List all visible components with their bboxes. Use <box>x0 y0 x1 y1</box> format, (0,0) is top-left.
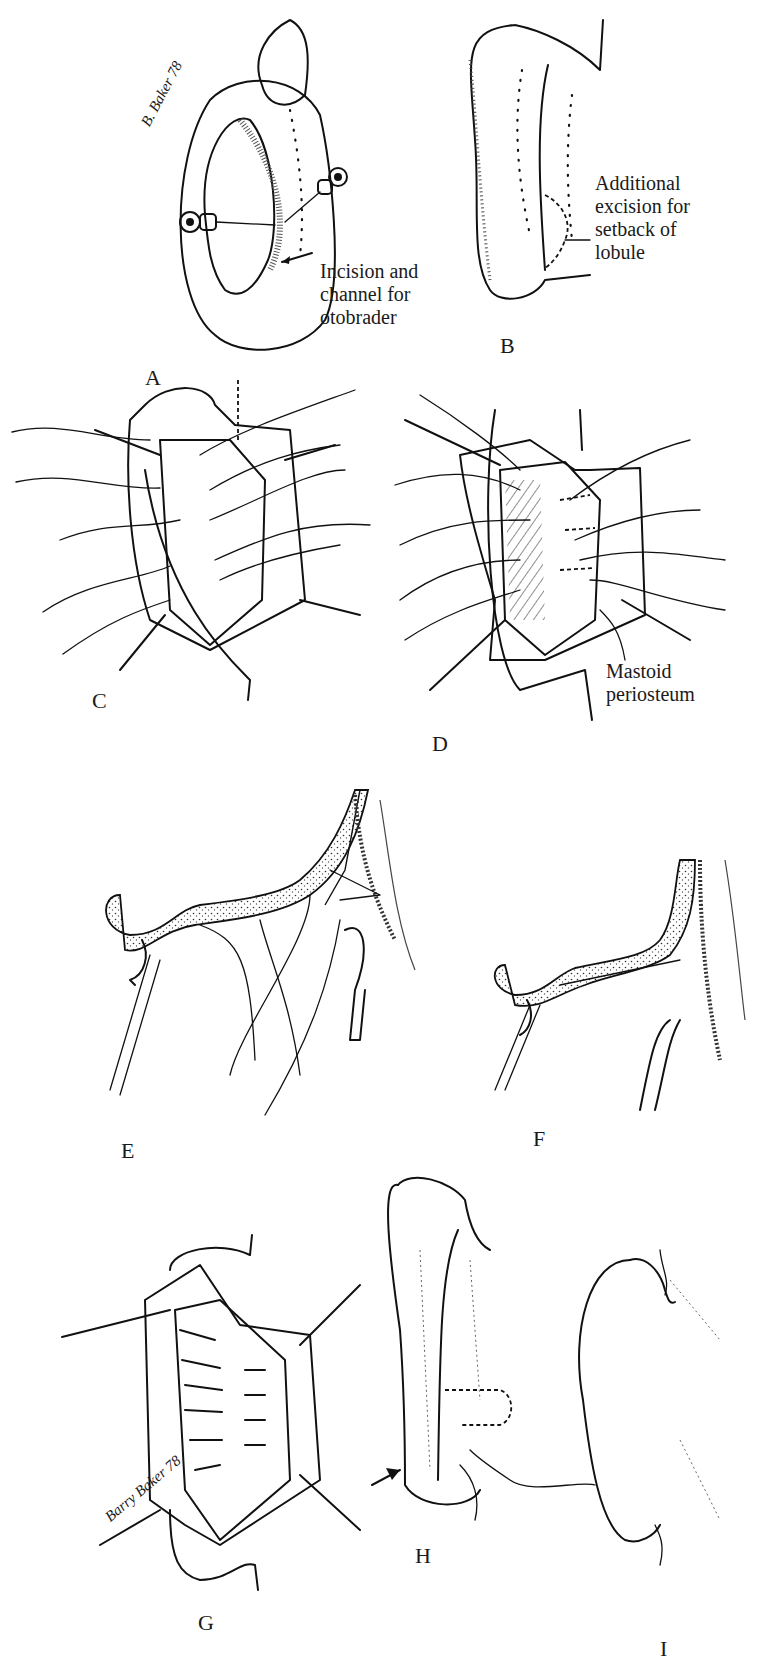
panel-label-d: D <box>432 733 448 755</box>
panel-c-wound-drawing <box>12 380 370 700</box>
panel-h-ear-drawing <box>372 1178 595 1520</box>
panel-e-cross-section-drawing <box>106 790 415 1115</box>
panel-b-ear-drawing <box>470 20 603 299</box>
callout-incision-channel: Incision and channel for otobrader <box>320 260 418 329</box>
otobrader-handle-left-icon <box>180 212 275 232</box>
panel-label-h: H <box>415 1545 431 1567</box>
panel-label-i: I <box>660 1638 667 1660</box>
otobrader-handle-right-icon <box>285 168 347 222</box>
callout-line-d <box>600 610 625 660</box>
callout-mastoid-periosteum: Mastoid periosteum <box>606 660 695 706</box>
panel-g-closure-drawing <box>62 1235 360 1590</box>
panel-label-f: F <box>533 1128 545 1150</box>
panel-label-e: E <box>121 1140 134 1162</box>
panel-i-ear-drawing <box>579 1250 720 1565</box>
panel-label-a: A <box>145 367 161 389</box>
panel-f-cross-section-drawing <box>495 860 745 1110</box>
panel-label-g: G <box>198 1612 214 1634</box>
callout-additional-excision: Additional excision for setback of lobul… <box>595 172 690 264</box>
panel-label-b: B <box>500 335 515 357</box>
panel-label-c: C <box>92 690 107 712</box>
